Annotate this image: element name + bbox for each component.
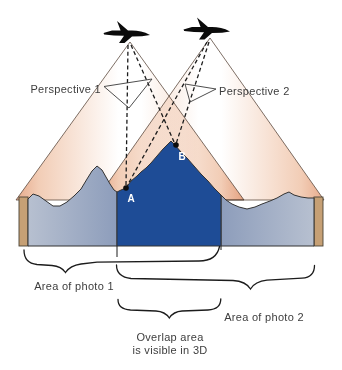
perspective2-label: Perspective 2	[219, 85, 290, 97]
stereo-photography-diagram: A B Perspective 1 Perspective 2 Area of …	[0, 0, 342, 370]
ground-strip-right	[314, 197, 323, 246]
point-a-label: A	[127, 193, 134, 204]
point-b-dot	[173, 142, 179, 148]
point-a-dot	[123, 185, 129, 191]
point-b-label: B	[178, 151, 185, 162]
area-photo1-label: Area of photo 1	[34, 280, 114, 292]
ground-strip-left	[19, 197, 28, 246]
overlap-label-line1: Overlap area	[136, 331, 204, 343]
perspective1-label: Perspective 1	[30, 83, 101, 95]
overlap-label-line2: is visible in 3D	[132, 344, 207, 356]
area-photo2-label: Area of photo 2	[224, 311, 304, 323]
diagram-canvas: A B Perspective 1 Perspective 2 Area of …	[0, 0, 342, 370]
